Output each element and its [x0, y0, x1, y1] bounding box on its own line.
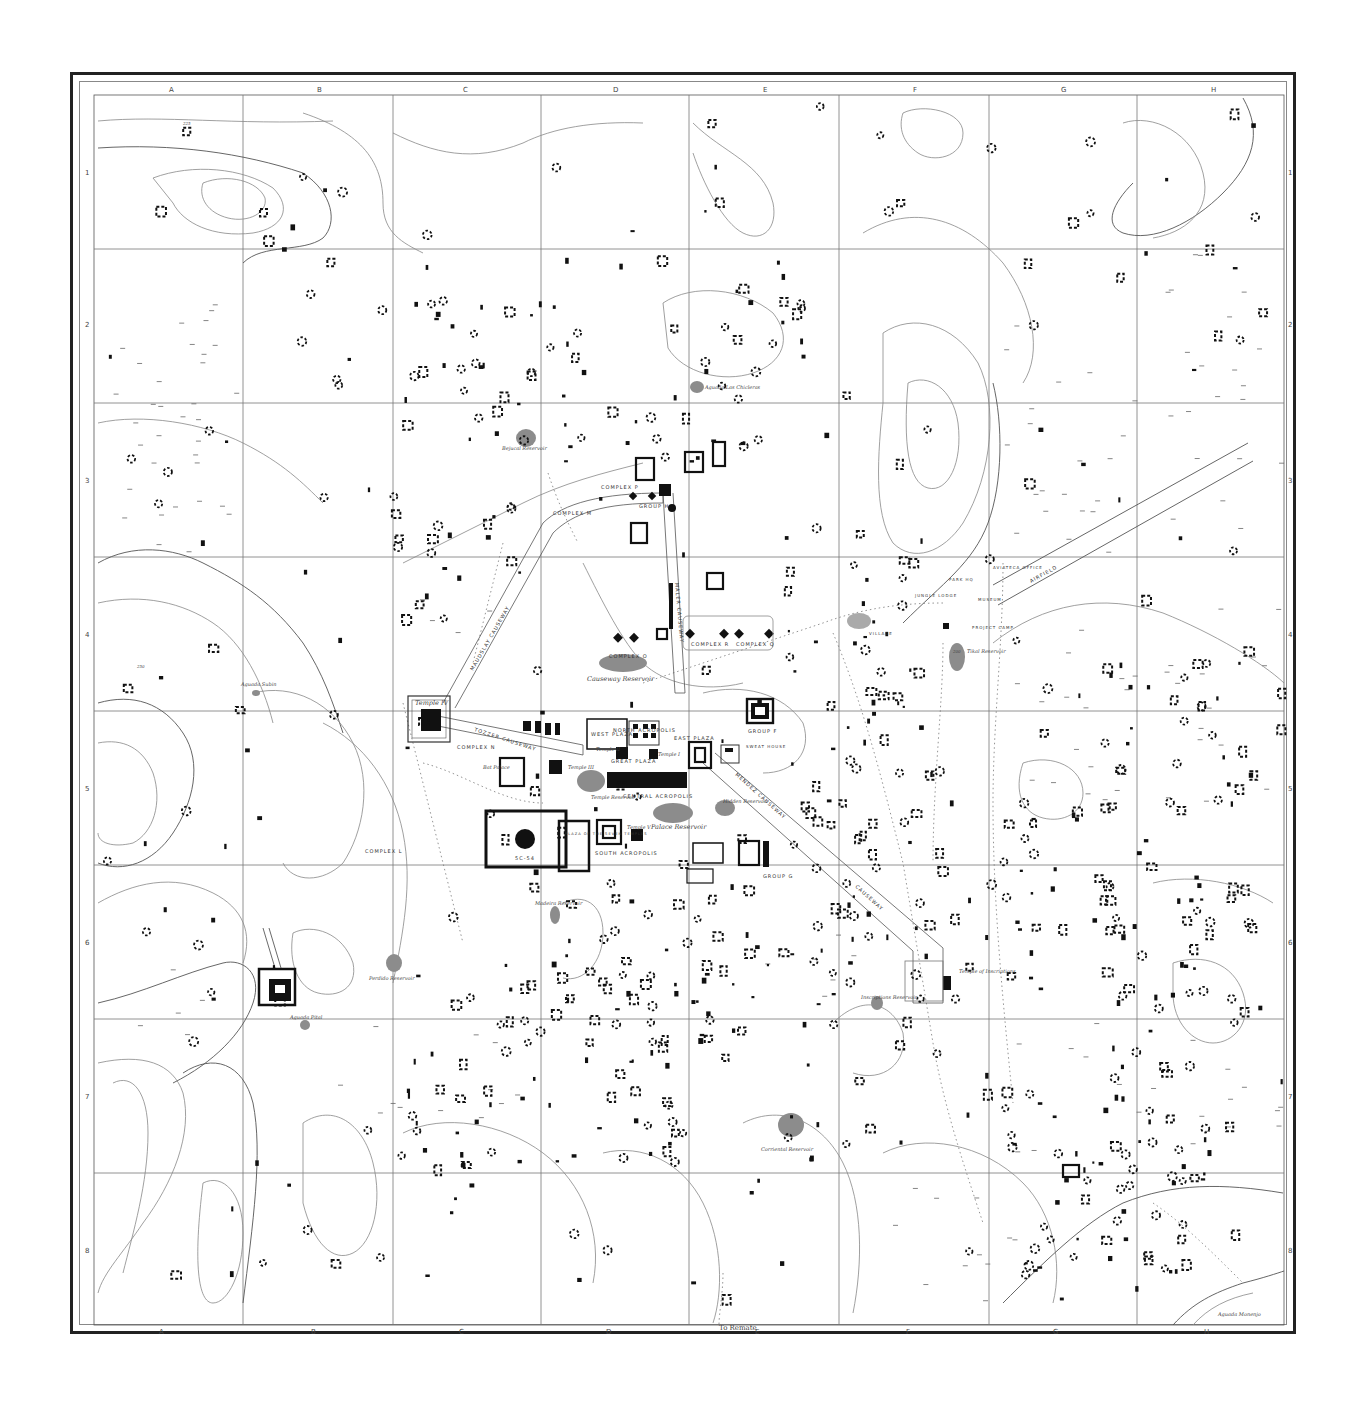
tikal-map[interactable]: A B C D E F G H A B C D E F G H 1 2 3 4 …	[73, 75, 1299, 1337]
column-labels-top: A B C D E F G H	[169, 86, 1216, 94]
label-west-plaza: WEST PLAZA	[591, 731, 633, 737]
label-group-f: GROUP F	[748, 728, 777, 734]
palace-reservoir	[653, 803, 693, 823]
row-label-7: 7	[85, 1093, 89, 1101]
row-label-5-right: 5	[1288, 785, 1292, 793]
col-label-e: E	[763, 86, 767, 94]
label-complex-o: COMPLEX O	[609, 653, 648, 659]
label-project-camp: PROJECT CAMP	[972, 625, 1014, 630]
label-mendez-causeway: MENDEZ CAUSEWAY	[734, 771, 787, 820]
aguada-chiclero	[690, 381, 704, 393]
contour-label-225: 225	[182, 121, 191, 126]
contour-lines	[98, 98, 1284, 1325]
aguada-subin	[252, 690, 260, 696]
row-label-1: 1	[85, 169, 89, 177]
label-aguada-chiclero: Aguada Las Chicleras	[704, 384, 761, 391]
label-tikal-reservoir: Tikal Reservoir	[967, 648, 1006, 654]
aguada-pital-shape	[300, 1020, 310, 1030]
label-sweat-house: SWEAT HOUSE	[746, 744, 786, 749]
east-groups	[747, 623, 1079, 1177]
label-aguada-pital: Aguada Pital	[289, 1014, 323, 1021]
label-complex-n: COMPLEX N	[457, 744, 495, 750]
row-label-4: 4	[85, 631, 90, 639]
label-plaza-seven-temples: PLAZA OF THE SEVEN TEMPLES	[565, 832, 648, 836]
map-labels: Temple IV TOZZER CAUSEWAY MAUDSLAY CAUSE…	[136, 121, 1261, 1332]
label-inscriptions-reservoir: Inscriptions Reservoir	[860, 994, 918, 1001]
label-south-acropolis: SOUTH ACROPOLIS	[595, 850, 658, 856]
madeira-reservoir-shape	[550, 906, 560, 924]
row-label-2-right: 2	[1288, 321, 1292, 329]
col-label-c-bottom: C	[459, 1328, 464, 1336]
label-complex-p: COMPLEX P	[601, 484, 639, 490]
col-label-d-bottom: D	[606, 1328, 611, 1336]
label-to-remate: To Remate	[719, 1324, 757, 1332]
label-temple-iv: Temple IV	[415, 699, 450, 707]
contour-label-250: 250	[136, 664, 145, 669]
row-label-7-right: 7	[1288, 1093, 1292, 1101]
col-label-g: G	[1061, 86, 1066, 94]
label-aguada-monenjo: Aguada Monenjo	[1217, 1311, 1261, 1318]
label-complex-l: COMPLEX L	[365, 848, 403, 854]
row-labels-right: 1 2 3 4 5 6 7 8	[1288, 169, 1293, 1255]
label-complex-r: COMPLEX R	[691, 641, 729, 647]
label-museum: MUSEUM	[978, 597, 1002, 602]
tikal-reservoir-shape	[949, 643, 965, 671]
row-label-4-right: 4	[1288, 631, 1293, 639]
col-label-f-bottom: F	[906, 1328, 910, 1336]
col-label-b-bottom: B	[311, 1328, 316, 1336]
label-complex-q: COMPLEX Q	[736, 641, 775, 647]
label-causeway-reservoir: Causeway Reservoir	[587, 675, 655, 683]
col-label-h-bottom: H	[1204, 1328, 1209, 1336]
west-group	[259, 928, 295, 1005]
label-5c-54: 5C-54	[515, 855, 535, 861]
label-temple-inscriptions: Temple of Inscriptions	[959, 968, 1016, 975]
label-palace-reservoir: Palace Reservoir	[650, 823, 707, 831]
label-perdido-reservoir: Perdido Reservoir	[368, 975, 415, 981]
label-temple-reservoir: Temple Reservoir	[591, 794, 636, 801]
label-hidden-reservoir: Hidden Reservoir	[722, 798, 768, 804]
label-group-h: GROUP H	[639, 503, 669, 509]
row-label-1-right: 1	[1288, 169, 1292, 177]
label-complex-m: COMPLEX M	[553, 510, 592, 516]
temple-reservoir	[577, 770, 605, 792]
row-label-8-right: 8	[1288, 1247, 1292, 1255]
label-temple-iii: Temple III	[568, 764, 595, 771]
label-jungle-lodge: JUNGLE LODGE	[914, 593, 957, 598]
label-group-g: GROUP G	[763, 873, 793, 879]
label-corriental-reservoir: Corriental Reservoir	[761, 1146, 814, 1152]
col-label-g-bottom: G	[1053, 1328, 1058, 1336]
label-aguada-subin: Aguada Subin	[240, 681, 276, 688]
label-aviateca-office: AVIATECA OFFICE	[993, 565, 1043, 570]
perdido-reservoir-shape	[386, 954, 402, 972]
label-madeira-reservoir: Madeira Reservoir	[534, 900, 583, 906]
label-park-hq: PARK HQ	[949, 577, 974, 582]
col-label-a: A	[169, 86, 174, 94]
village-aguada	[847, 613, 871, 629]
north-complexes	[613, 442, 774, 650]
row-label-5: 5	[85, 785, 89, 793]
col-label-f: F	[913, 86, 917, 94]
row-label-2: 2	[85, 321, 89, 329]
label-great-plaza: GREAT PLAZA	[611, 758, 656, 764]
row-label-3: 3	[85, 477, 89, 485]
col-label-c: C	[463, 86, 468, 94]
row-label-8: 8	[85, 1247, 89, 1255]
row-labels-left: 1 2 3 4 5 6 7 8	[85, 169, 90, 1255]
label-temple-i: Temple I	[658, 751, 681, 758]
label-east-plaza: EAST PLAZA	[674, 735, 715, 741]
label-temple-v: Temple V	[627, 824, 652, 831]
label-temple-ii: Temple II	[596, 746, 621, 753]
row-label-6-right: 6	[1288, 939, 1293, 947]
reservoirs	[252, 381, 965, 1137]
col-label-d: D	[613, 86, 618, 94]
label-causeway-se: CAUSEWAY	[854, 883, 885, 911]
row-label-3-right: 3	[1288, 477, 1292, 485]
trails	[403, 473, 1243, 1325]
col-label-h: H	[1211, 86, 1216, 94]
label-bat-palace: Bat Palace	[482, 764, 510, 770]
swamp-symbols	[114, 255, 1284, 1301]
map-frame: A B C D E F G H A B C D E F G H 1 2 3 4 …	[70, 72, 1296, 1334]
contour-label-200: 200	[952, 649, 961, 654]
col-label-a-bottom: A	[159, 1328, 164, 1336]
label-village: VILLAGE	[869, 631, 893, 636]
